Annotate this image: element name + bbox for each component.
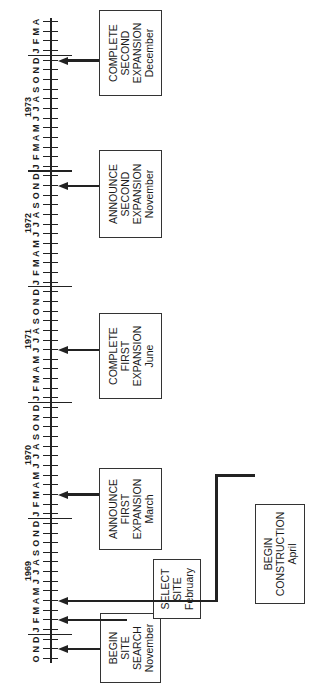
month-label: O: [32, 422, 41, 432]
month-label: S: [32, 432, 41, 442]
event-line: EXPANSION: [131, 23, 143, 84]
event-line: February: [183, 568, 195, 610]
event-line: COMPLETE: [107, 327, 119, 385]
month-label: A: [32, 94, 41, 104]
month-tick: [43, 581, 58, 582]
event-line: EXPANSION: [131, 164, 143, 225]
month-label: J: [32, 345, 41, 355]
month-tick: [43, 484, 58, 485]
month-label: F: [32, 268, 41, 278]
month-tick: [43, 436, 58, 437]
month-tick: [43, 50, 58, 51]
arrow-stem: [66, 619, 126, 622]
year-label-1972: 1972: [23, 208, 33, 238]
event-line: COMPLETE: [107, 24, 119, 82]
month-tick: [43, 542, 58, 543]
month-label: M: [32, 471, 41, 481]
month-tick: [43, 118, 58, 119]
month-tick: [43, 195, 58, 196]
month-label: J: [32, 46, 41, 56]
month-tick: [43, 523, 58, 524]
month-tick: [43, 224, 58, 225]
month-label: S: [32, 85, 41, 95]
month-label: A: [32, 326, 41, 336]
event-line: April: [286, 544, 298, 565]
month-tick: [43, 176, 58, 177]
month-label: A: [32, 249, 41, 259]
arrow-up-icon: [58, 491, 68, 499]
month-label: J: [32, 336, 41, 346]
month-label: M: [32, 355, 41, 365]
event-line: BEGIN: [262, 538, 274, 571]
month-label: J: [32, 461, 41, 471]
month-tick: [43, 98, 58, 99]
arrow-stem: [66, 493, 99, 496]
month-tick: [43, 600, 58, 601]
month-label: A: [32, 133, 41, 143]
month-tick: [43, 562, 58, 563]
month-tick: [43, 369, 58, 370]
month-label: D: [32, 287, 41, 297]
month-tick: [43, 658, 58, 659]
month-label: S: [32, 200, 41, 210]
month-tick: [43, 407, 58, 408]
arrow-stem: [66, 349, 99, 352]
month-tick: [43, 79, 58, 80]
event-line: SECOND: [119, 31, 131, 76]
event-line: SITE: [119, 636, 131, 659]
month-tick: [43, 397, 58, 398]
month-label: F: [32, 152, 41, 162]
event-line: EXPANSION: [131, 479, 143, 540]
event-line: ANNOUNCE: [107, 479, 119, 539]
event-line: SEARCH: [131, 626, 143, 670]
year-label-1971: 1971: [23, 324, 33, 354]
month-tick: [43, 311, 58, 312]
month-tick: [43, 513, 58, 514]
month-label: N: [32, 65, 41, 75]
arrow-up-icon: [58, 597, 68, 605]
month-label: J: [32, 567, 41, 577]
month-label: A: [32, 442, 41, 452]
month-tick: [43, 629, 58, 630]
month-tick: [43, 359, 58, 360]
month-tick: [43, 504, 58, 505]
month-tick: [43, 475, 58, 476]
month-tick: [43, 60, 58, 61]
month-label: J: [32, 278, 41, 288]
arrow-elbow: [215, 475, 255, 478]
month-tick: [43, 340, 58, 341]
month-label: A: [32, 558, 41, 568]
month-tick: [43, 301, 58, 302]
month-tick: [43, 253, 58, 254]
month-tick: [43, 21, 58, 22]
month-tick: [43, 243, 58, 244]
month-label: N: [32, 297, 41, 307]
month-label: D: [32, 56, 41, 66]
event-line: December: [143, 29, 155, 77]
arrow-up-icon: [58, 645, 68, 653]
month-label: J: [32, 451, 41, 461]
arrow-stem: [66, 59, 99, 62]
arrow-up-icon: [58, 57, 68, 65]
month-label: M: [32, 143, 41, 153]
month-tick: [43, 233, 58, 234]
year-label-1969: 1969: [23, 556, 33, 586]
month-tick: [43, 590, 58, 591]
month-label: A: [32, 480, 41, 490]
arrow-stem: [66, 185, 99, 188]
month-label: N: [32, 413, 41, 423]
month-label: D: [32, 635, 41, 645]
month-label: O: [32, 538, 41, 548]
month-label: M: [32, 490, 41, 500]
event-line: March: [143, 494, 155, 523]
event-line: FIRST: [119, 494, 131, 524]
arrow-elbow: [215, 477, 218, 602]
month-label: F: [32, 615, 41, 625]
month-tick: [43, 330, 58, 331]
month-label: M: [32, 239, 41, 249]
event-announce-first-expansion: ANNOUNCE FIRST EXPANSION March: [99, 468, 162, 550]
event-announce-second-expansion: ANNOUNCE SECOND EXPANSION November: [99, 150, 162, 238]
month-tick: [43, 388, 58, 389]
month-tick: [43, 378, 58, 379]
month-tick: [43, 291, 58, 292]
